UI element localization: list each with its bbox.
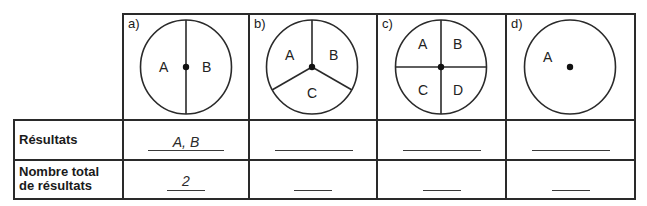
region-label: C — [307, 85, 317, 101]
region-label: B — [453, 36, 462, 52]
row-header-results: Résultats — [19, 133, 78, 147]
region-label: A — [159, 59, 169, 75]
column-label-d: d) — [511, 16, 523, 31]
results-blank-a — [148, 150, 224, 151]
total-blank-c — [423, 190, 461, 191]
spinner-d-one-sector: A — [523, 18, 619, 116]
table-border-top — [122, 13, 636, 15]
region-label: B — [202, 59, 211, 75]
total-blank-b — [294, 190, 332, 191]
total-blank-a — [167, 190, 205, 191]
table-border-bottom — [13, 198, 636, 200]
region-label: C — [418, 82, 428, 98]
results-blank-b — [275, 150, 353, 151]
results-blank-c — [403, 150, 481, 151]
table-border-right — [634, 13, 636, 200]
region-label: D — [453, 82, 463, 98]
total-answer-a[interactable]: 2 — [167, 173, 205, 189]
table-border-left — [13, 119, 15, 200]
row-divider-1 — [13, 119, 636, 121]
region-label: A — [285, 47, 295, 63]
spinner-outcomes-table: a) b) c) d) A B A B C A B C D A Résult — [0, 0, 647, 206]
spinner-a-two-sectors: A B — [138, 18, 234, 116]
spinner-c-four-sectors: A B C D — [394, 18, 490, 116]
column-label-b: b) — [254, 16, 266, 31]
col-divider-b — [248, 13, 250, 200]
region-label: B — [329, 47, 338, 63]
col-divider-d — [505, 13, 507, 200]
results-blank-d — [532, 150, 610, 151]
row-header-total-line2: de résultats — [19, 179, 92, 193]
row-header-total-line1: Nombre total — [19, 165, 99, 179]
spinner-b-three-sectors: A B C — [265, 18, 361, 116]
region-label: A — [543, 49, 553, 65]
row-divider-2 — [13, 159, 636, 161]
total-blank-d — [552, 190, 590, 191]
col-divider-c — [376, 13, 378, 200]
region-label: A — [418, 36, 428, 52]
results-answer-a[interactable]: A, B — [148, 134, 224, 150]
col-divider-a — [122, 13, 124, 200]
column-label-c: c) — [382, 16, 393, 31]
